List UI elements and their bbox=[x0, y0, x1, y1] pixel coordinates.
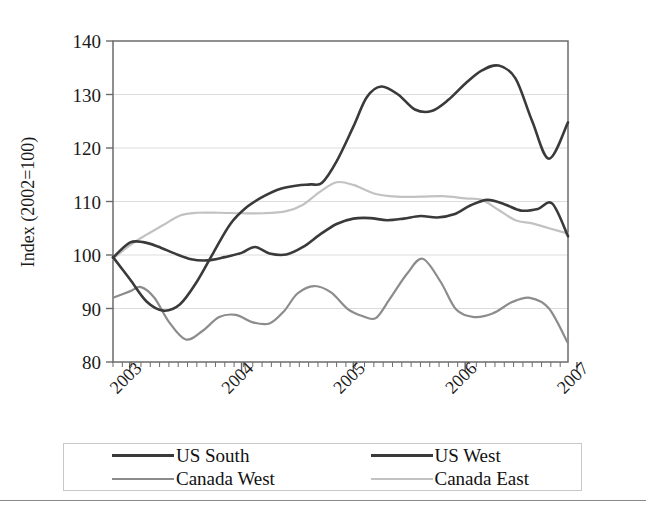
legend-item-us-south: US South bbox=[64, 446, 323, 465]
series-line-us-west bbox=[113, 65, 568, 310]
legend-grid: US South US West Canada West Canada East bbox=[64, 444, 581, 490]
y-axis-tick-label: 80 bbox=[82, 352, 101, 373]
legend-label-us-south: US South bbox=[176, 446, 249, 465]
x-axis-tick-label: 2003 bbox=[106, 358, 146, 398]
x-axis-tick-label: 2004 bbox=[218, 358, 258, 398]
line-chart-svg: 1401301201101009080 20032004200520062007… bbox=[0, 0, 646, 445]
chart-plot-area: 1401301201101009080 20032004200520062007… bbox=[0, 0, 646, 512]
x-axis-tick-label: 2007 bbox=[553, 358, 593, 398]
chart-legend: US South US West Canada West Canada East bbox=[63, 443, 582, 491]
x-axis-tick-labels-group: 20032004200520062007 bbox=[106, 358, 593, 398]
series-line-us-south bbox=[113, 200, 568, 261]
x-axis-tick-label: 2005 bbox=[329, 358, 369, 398]
y-axis-ticks-group bbox=[106, 41, 113, 362]
x-axis-tick-label: 2006 bbox=[441, 358, 481, 398]
legend-swatch-us-south bbox=[112, 454, 174, 457]
legend-swatch-canada-east bbox=[371, 478, 433, 480]
legend-item-us-west: US West bbox=[323, 446, 582, 465]
series-line-canada-west bbox=[113, 259, 568, 344]
legend-label-canada-east: Canada East bbox=[435, 469, 529, 488]
y-axis-tick-labels-group: 1401301201101009080 bbox=[73, 31, 102, 373]
legend-label-canada-west: Canada West bbox=[176, 469, 275, 488]
y-axis-tick-label: 130 bbox=[73, 85, 102, 106]
legend-label-us-west: US West bbox=[435, 446, 501, 465]
legend-item-canada-west: Canada West bbox=[64, 469, 323, 488]
y-axis-tick-label: 140 bbox=[73, 31, 102, 52]
legend-swatch-us-west bbox=[371, 454, 433, 457]
y-axis-tick-label: 110 bbox=[73, 192, 101, 213]
legend-item-canada-east: Canada East bbox=[323, 469, 582, 488]
y-axis-tick-label: 90 bbox=[82, 299, 101, 320]
page-bottom-rule bbox=[0, 500, 646, 501]
y-axis-tick-label: 120 bbox=[73, 138, 102, 159]
y-axis-title: Index (2002=100) bbox=[18, 137, 39, 268]
series-lines-group bbox=[113, 65, 568, 343]
y-axis-tick-label: 100 bbox=[73, 245, 102, 266]
figure-container: 1401301201101009080 20032004200520062007… bbox=[0, 0, 646, 512]
legend-swatch-canada-west bbox=[112, 478, 174, 480]
series-line-canada-east bbox=[113, 182, 568, 259]
